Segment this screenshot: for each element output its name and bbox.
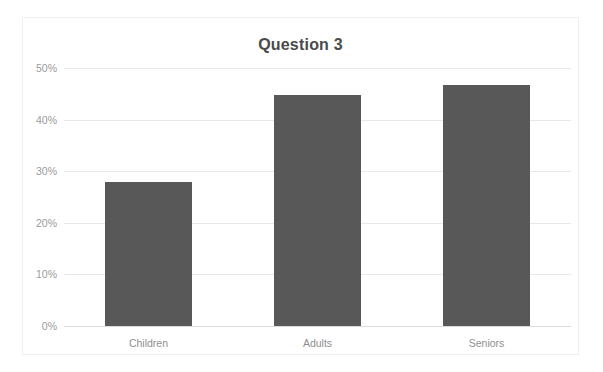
- y-tick-label: 30%: [36, 165, 57, 177]
- chart-title: Question 3: [23, 36, 578, 54]
- y-tick-label: 10%: [36, 268, 57, 280]
- chart-card: Question 3 0%10%20%30%40%50%ChildrenAdul…: [22, 17, 579, 355]
- bar[interactable]: [274, 95, 361, 326]
- x-tick-label: Seniors: [469, 337, 505, 349]
- bar-group: Adults: [274, 68, 361, 326]
- y-tick-label: 0%: [42, 320, 57, 332]
- bar[interactable]: [105, 182, 192, 326]
- plot-area: 0%10%20%30%40%50%ChildrenAdultsSeniors: [64, 68, 571, 326]
- y-tick-label: 20%: [36, 217, 57, 229]
- x-tick-label: Adults: [303, 337, 332, 349]
- bar[interactable]: [443, 85, 530, 326]
- axis-baseline: [64, 326, 571, 327]
- x-tick-label: Children: [129, 337, 168, 349]
- y-tick-label: 50%: [36, 62, 57, 74]
- y-tick-label: 40%: [36, 114, 57, 126]
- bar-group: Seniors: [443, 68, 530, 326]
- bar-group: Children: [105, 68, 192, 326]
